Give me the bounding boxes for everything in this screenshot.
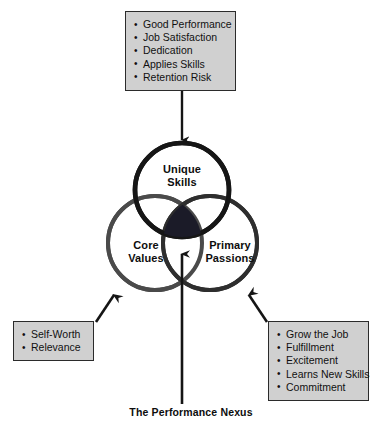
diagram-caption: The Performance Nexus bbox=[0, 406, 382, 418]
arrow-left-box-to-core-values bbox=[96, 295, 114, 322]
callout-box-bottom-left-list: Self-Worth Relevance bbox=[22, 328, 86, 354]
list-item: Fulfillment bbox=[277, 341, 361, 354]
list-item: Self-Worth bbox=[22, 328, 86, 341]
list-item: Relevance bbox=[22, 341, 86, 354]
list-item: Applies Skills bbox=[134, 58, 228, 71]
circle-label-core-values: Core Values bbox=[116, 239, 176, 264]
circle-label-core-values-line2: Values bbox=[128, 252, 163, 264]
callout-box-top-list: Good Performance Job Satisfaction Dedica… bbox=[134, 18, 228, 84]
circle-label-unique-skills-line1: Unique bbox=[163, 163, 201, 175]
list-item: Dedication bbox=[134, 44, 228, 57]
list-item: Job Satisfaction bbox=[134, 31, 228, 44]
callout-box-bottom-right: Grow the Job Fulfillment Excitement Lear… bbox=[268, 321, 369, 401]
list-item: Commitment bbox=[277, 381, 361, 394]
list-item: Good Performance bbox=[134, 18, 228, 31]
circle-label-primary-passions-line2: Passions bbox=[205, 252, 254, 264]
list-item: Learns New Skills bbox=[277, 368, 361, 381]
circle-label-primary-passions-line1: Primary bbox=[209, 239, 251, 251]
list-item: Retention Risk bbox=[134, 71, 228, 84]
circle-label-unique-skills-line2: Skills bbox=[167, 176, 196, 188]
circle-label-unique-skills: Unique Skills bbox=[146, 163, 218, 188]
list-item: Excitement bbox=[277, 354, 361, 367]
circle-label-primary-passions: Primary Passions bbox=[194, 239, 266, 264]
diagram-canvas: Unique Skills Core Values Primary Passio… bbox=[0, 0, 382, 431]
callout-box-bottom-left: Self-Worth Relevance bbox=[13, 321, 94, 361]
circle-label-core-values-line1: Core bbox=[133, 239, 158, 251]
arrow-right-box-to-primary-passions bbox=[249, 295, 267, 322]
callout-box-top: Good Performance Job Satisfaction Dedica… bbox=[125, 11, 236, 91]
callout-box-bottom-right-list: Grow the Job Fulfillment Excitement Lear… bbox=[277, 328, 361, 394]
list-item: Grow the Job bbox=[277, 328, 361, 341]
